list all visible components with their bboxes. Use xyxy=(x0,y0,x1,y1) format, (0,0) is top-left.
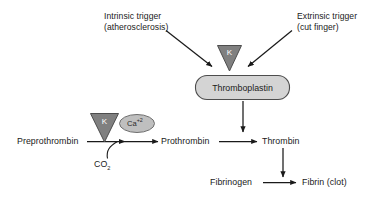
label-co2-sub: 2 xyxy=(107,165,110,171)
vitamin-k-top-label: K xyxy=(217,48,242,57)
label-co2: CO2 xyxy=(94,159,110,170)
node-fibrinogen: Fibrinogen xyxy=(210,177,252,188)
node-thrombin: Thrombin xyxy=(262,136,300,147)
node-thromboplastin-label: Thromboplastin xyxy=(212,83,273,93)
node-fibrin: Fibrin (clot) xyxy=(302,177,347,188)
vitamin-k-bottom-label: K xyxy=(91,117,118,126)
calcium-label: Ca+2 xyxy=(127,119,143,128)
annotation-extrinsic-trigger-line2: (cut finger) xyxy=(297,22,339,32)
annotation-intrinsic-trigger: Intrinsic trigger (atherosclerosis) xyxy=(104,11,184,32)
node-prothrombin: Prothrombin xyxy=(161,136,209,147)
annotation-extrinsic-trigger-line1: Extrinsic trigger xyxy=(297,11,357,21)
node-preprothrombin: Preprothrombin xyxy=(17,136,78,147)
annotation-extrinsic-trigger: Extrinsic trigger (cut finger) xyxy=(297,11,379,32)
node-thromboplastin: Thromboplastin xyxy=(195,75,290,100)
label-co2-base: CO xyxy=(94,159,107,169)
annotation-intrinsic-trigger-line2: (atherosclerosis) xyxy=(104,22,168,32)
calcium-label-base: Ca xyxy=(127,119,137,128)
annotation-intrinsic-trigger-line1: Intrinsic trigger xyxy=(104,11,161,21)
clotting-cascade-diagram: Intrinsic trigger (atherosclerosis) Extr… xyxy=(0,0,388,200)
calcium-label-charge: +2 xyxy=(137,117,143,123)
